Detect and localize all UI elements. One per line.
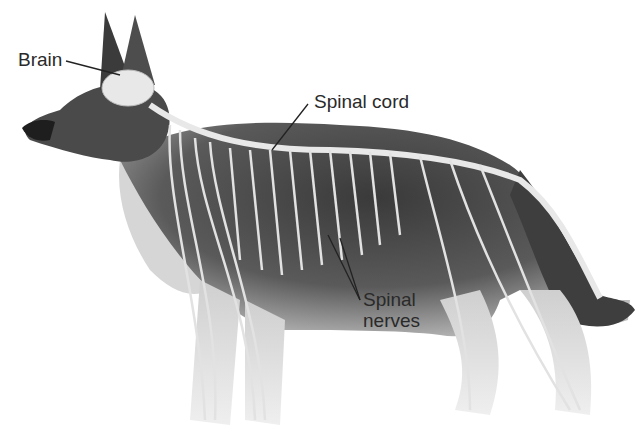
spinal-nerves-label-line2: nerves bbox=[363, 311, 420, 331]
brain-label: Brain bbox=[18, 50, 62, 70]
spinal-cord-label: Spinal cord bbox=[314, 92, 409, 112]
brain-shape bbox=[102, 70, 154, 106]
dog-nervous-system-diagram: Brain Spinal cord Spinal nerves bbox=[0, 0, 640, 448]
dog-illustration bbox=[0, 0, 640, 448]
spinal-nerves-label-line1: Spinal bbox=[363, 290, 416, 310]
